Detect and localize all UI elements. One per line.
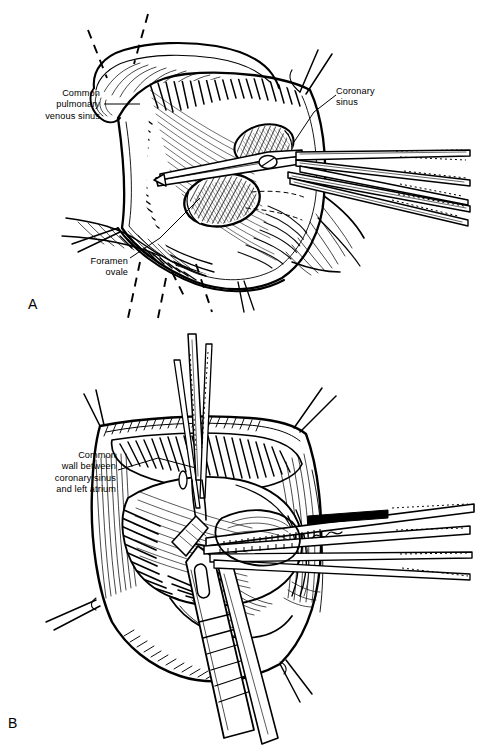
leader-common-wall-1 [118, 458, 158, 470]
label-common-pulmonary-venous-sinus: Common pulmonary venous sinus [8, 88, 100, 122]
panel-b: Common wall between coronary sinus and l… [0, 330, 480, 750]
surgical-figure: Common pulmonary venous sinus Coronary s… [0, 0, 480, 750]
label-common-wall-between-coronary-sinus-and-left-atrium: Common wall between coronary sinus and l… [4, 450, 116, 496]
panel-a: Common pulmonary venous sinus Coronary s… [0, 0, 480, 330]
stay-suture-right-upper [290, 50, 332, 94]
cut-off-caption-line [0, 744, 480, 750]
atrial-wall-upper-fold [91, 43, 279, 122]
leader-coronary-sinus-lower [294, 112, 314, 142]
tissue-tether-bottom [238, 281, 254, 312]
label-foramen-ovale: Foramen ovale [58, 256, 128, 279]
panel-b-drawing [46, 334, 474, 744]
panel-a-illustration [0, 0, 480, 330]
panel-letter-a: A [28, 297, 38, 311]
tissue-tether-left [72, 228, 120, 252]
leader-coronary-sinus-upper [314, 95, 336, 112]
atrial-floor-fold [62, 218, 284, 291]
panel-letter-b: B [8, 716, 18, 730]
panel-b-illustration [0, 330, 480, 750]
label-coronary-sinus: Coronary sinus [336, 86, 446, 109]
